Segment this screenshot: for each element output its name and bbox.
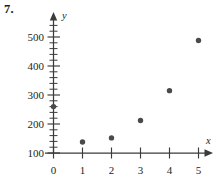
x-tick-label: 0 <box>51 164 57 176</box>
y-tick-label: 100 <box>28 147 45 159</box>
y-tick-label: 500 <box>28 31 45 43</box>
y-axis-arrowhead <box>50 12 57 21</box>
data-point <box>51 104 56 109</box>
x-axis-label: x <box>205 135 211 146</box>
data-point <box>138 118 143 123</box>
data-points <box>51 38 201 145</box>
data-point <box>80 139 85 144</box>
x-tick-label: 4 <box>167 164 173 176</box>
x-tick-label: 1 <box>80 164 86 176</box>
problem-number-label: 7. <box>4 2 14 16</box>
x-tick-label: 3 <box>138 164 144 176</box>
scatter-plot: y x <box>0 0 222 186</box>
y-tick-label: 200 <box>28 118 45 130</box>
y-axis-tick-labels: 100 200 300 400 500 <box>28 31 45 159</box>
y-tick-label: 300 <box>28 89 45 101</box>
data-point <box>109 135 114 140</box>
x-axis-tick-labels: 0 1 2 3 4 5 <box>51 164 202 176</box>
x-tick-label: 2 <box>109 164 115 176</box>
x-axis-arrowhead <box>205 149 214 156</box>
y-tick-label: 400 <box>28 60 45 72</box>
x-tick-label: 5 <box>196 164 202 176</box>
data-point <box>167 88 172 93</box>
exercise-figure: 7. y x <box>0 0 222 186</box>
y-axis-label: y <box>61 10 67 21</box>
data-point <box>196 38 201 43</box>
